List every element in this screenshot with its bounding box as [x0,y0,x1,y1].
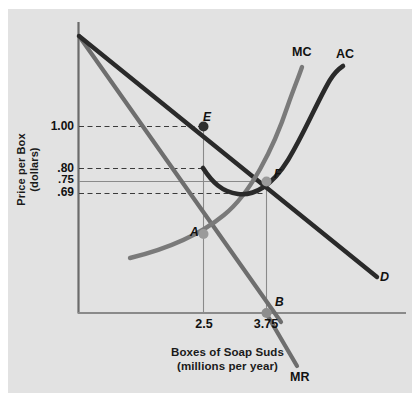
point-label-b: B [275,295,284,309]
curve-demand [79,36,377,277]
y-tick-label-0-75: .75 [22,173,74,185]
x-tick-label-3-75: 3.75 [243,317,289,331]
curve-label-mc: MC [292,45,311,59]
curve-average-cost [203,66,343,194]
y-tick-label-1-00: 1.00 [22,119,74,133]
economics-chart-figure: Price per Box (dollars) Boxes of Soap Su… [0,0,420,401]
x-axis-title: Boxes of Soap Suds (millions per year) [120,345,335,373]
x-tick-label-2-5: 2.5 [181,317,227,331]
data-point-f-marker[interactable] [262,177,272,187]
curve-label-ac: AC [336,47,354,61]
chart-plot-area [0,0,420,401]
point-label-e: E [203,110,211,124]
curve-label-mr: MR [290,370,309,384]
data-point-a-marker[interactable] [199,229,209,239]
point-label-a: A [190,225,199,239]
curve-marginal-revenue [79,36,281,322]
y-tick-label-0-69: .69 [22,185,74,199]
point-label-f: F [274,167,281,181]
x-axis-title-line1: Boxes of Soap Suds [120,345,335,359]
curve-label-d: D [380,270,389,284]
